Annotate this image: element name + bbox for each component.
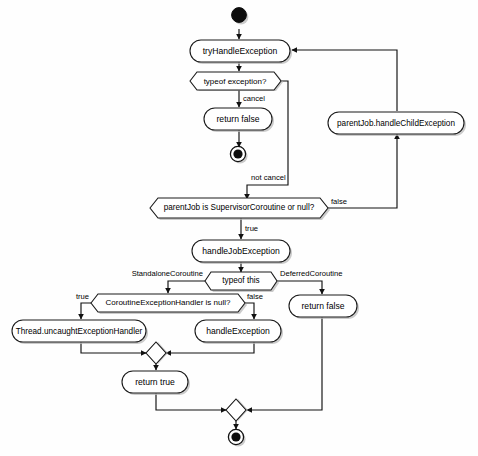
edge-label-ceh-true: true: [76, 292, 89, 301]
node-thread-uncaught-exception-handler[interactable]: Thread.uncaughtExceptionHandler: [12, 320, 148, 344]
node-handle-exception-label: handleException: [206, 326, 270, 336]
node-thread-uncaught-exception-handler-label: Thread.uncaughtExceptionHandler: [16, 327, 143, 336]
node-handle-exception[interactable]: handleException: [195, 320, 283, 344]
edge-label-supervisor-true: true: [245, 224, 258, 233]
flowchart-svg: tryHandleException typeof exception? ret…: [0, 0, 478, 456]
edge-return-true-to-lower-merge: [156, 393, 226, 410]
merge-node-upper: [146, 342, 168, 364]
final-node-end: [228, 429, 245, 446]
node-return-false-cancel[interactable]: return false: [204, 108, 274, 132]
node-parent-job-supervisor-label: parentJob is SupervisorCoroutine or null…: [164, 203, 315, 212]
nodes-layer: tryHandleException typeof exception? ret…: [12, 8, 466, 447]
node-typeof-exception-decision[interactable]: typeof exception?: [190, 72, 283, 91]
edge-ceh-true-to-thread-handler: [81, 303, 91, 319]
edge-label-supervisor-false: false: [331, 197, 347, 206]
edge-deferred-to-return-false: [277, 281, 322, 294]
activity-diagram-canvas: tryHandleException typeof exception? ret…: [0, 0, 478, 456]
node-return-false-deferred[interactable]: return false: [289, 295, 359, 319]
node-parent-job-handle-child-exception-label: parentJob.handleChildException: [337, 119, 455, 128]
edge-label-ceh-false: false: [247, 292, 263, 301]
edge-parent-job-to-try-handle: [292, 50, 397, 111]
node-parent-job-handle-child-exception[interactable]: parentJob.handleChildException: [328, 112, 466, 136]
node-typeof-this-label: typeof this: [222, 276, 259, 285]
node-try-handle-exception-label: tryHandleException: [203, 46, 278, 56]
edge-label-not-cancel: not cancel: [251, 173, 286, 182]
node-return-true[interactable]: return true: [122, 371, 190, 395]
node-return-false-cancel-label: return false: [217, 114, 260, 124]
node-handle-job-exception[interactable]: handleJobException: [192, 240, 292, 264]
edge-label-deferred-coroutine: DeferredCoroutine: [280, 269, 342, 278]
node-ceh-is-null-decision[interactable]: CoroutineExceptionHandler is null?: [91, 294, 247, 314]
node-parent-job-supervisor-decision[interactable]: parentJob is SupervisorCoroutine or null…: [150, 198, 330, 220]
node-return-true-label: return true: [135, 377, 175, 387]
final-node-cancel: [230, 146, 247, 163]
node-ceh-is-null-label: CoroutineExceptionHandler is null?: [106, 298, 232, 307]
node-typeof-exception-label: typeof exception?: [204, 77, 267, 86]
node-typeof-this-decision[interactable]: typeof this: [205, 272, 279, 292]
edge-label-cancel: cancel: [243, 94, 265, 103]
node-return-false-deferred-label: return false: [302, 301, 345, 311]
initial-node: [232, 8, 249, 25]
edge-standalone-to-ceh-decision: [168, 281, 205, 293]
node-try-handle-exception[interactable]: tryHandleException: [190, 40, 292, 64]
edge-label-standalone-coroutine: StandaloneCoroutine: [132, 269, 203, 278]
merge-node-lower: [226, 399, 248, 421]
node-handle-job-exception-label: handleJobException: [202, 246, 280, 256]
